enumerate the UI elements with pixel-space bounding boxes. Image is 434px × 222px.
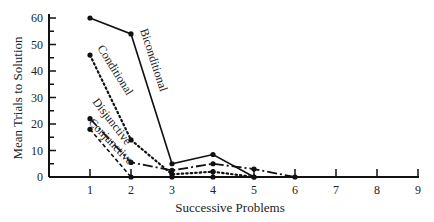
y-tick-label: 10 (31, 144, 43, 158)
y-tick-label: 50 (31, 38, 43, 52)
data-point (169, 168, 174, 173)
data-point (210, 169, 215, 174)
y-tick-label: 20 (31, 117, 43, 131)
x-tick-label: 5 (251, 183, 257, 197)
series-label-biconditional: Biconditional (137, 27, 171, 94)
x-tick-label: 3 (169, 183, 175, 197)
series-label-conditional: Conditional (94, 42, 136, 98)
data-point (128, 174, 133, 179)
x-tick-label: 4 (210, 183, 216, 197)
x-tick-label: 2 (128, 183, 134, 197)
data-point (292, 174, 297, 179)
data-point (251, 174, 256, 179)
x-axis-label: Successive Problems (175, 200, 284, 215)
axes: 0102030405060123456789 (31, 11, 421, 197)
series-labels: BiconditionalConditionalDisjunctiveConju… (86, 27, 171, 168)
x-tick-label: 1 (87, 183, 93, 197)
line-chart: 0102030405060123456789 BiconditionalCond… (0, 0, 434, 222)
data-point (87, 15, 92, 20)
x-tick-label: 9 (415, 183, 421, 197)
x-tick-label: 6 (292, 183, 298, 197)
x-tick-label: 8 (374, 183, 380, 197)
data-point (251, 166, 256, 171)
y-axis-label: Mean Trials to Solution (10, 36, 25, 160)
x-tick-label: 7 (333, 183, 339, 197)
y-tick-label: 0 (37, 170, 43, 184)
data-point (210, 152, 215, 157)
data-point (169, 161, 174, 166)
data-point (169, 174, 174, 179)
y-tick-label: 30 (31, 91, 43, 105)
data-point (210, 161, 215, 166)
y-tick-label: 60 (31, 11, 43, 25)
data-point (128, 31, 133, 36)
y-tick-label: 40 (31, 64, 43, 78)
chart-canvas: 0102030405060123456789 BiconditionalCond… (0, 0, 434, 222)
data-point (87, 53, 92, 58)
data-point (210, 174, 215, 179)
